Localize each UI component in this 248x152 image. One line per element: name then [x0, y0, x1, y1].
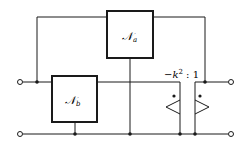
terminal-right-top: [229, 80, 234, 85]
polarity-dot-primary: [172, 94, 175, 97]
junction-dot: [203, 80, 207, 84]
terminal-right-bottom: [229, 132, 234, 137]
right-top-wire: [195, 82, 228, 134]
junction-dot: [128, 132, 132, 136]
junction-dot: [193, 132, 197, 136]
polarity-dot-secondary: [198, 94, 201, 97]
transformer-secondary-coil: [195, 100, 209, 114]
circuit-diagram: 𝒩a 𝒩b −k2 : 1: [0, 0, 248, 152]
transformer-primary-coil: [166, 100, 180, 114]
terminal-left-bottom: [18, 132, 23, 137]
junction-dot: [178, 132, 182, 136]
transformer-ratio-label: −k2 : 1: [164, 68, 199, 80]
junction-dot: [73, 132, 77, 136]
terminal-left-top: [18, 80, 23, 85]
junction-dot: [35, 80, 39, 84]
